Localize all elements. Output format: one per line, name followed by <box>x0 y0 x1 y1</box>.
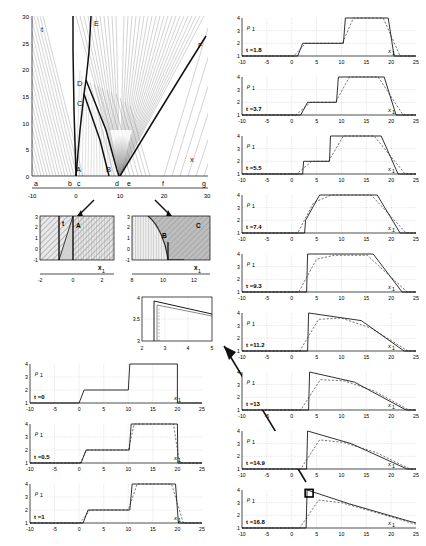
profile-time-label: t =11.2 <box>246 342 265 348</box>
profile-x-tick: 5 <box>315 413 318 419</box>
profile-x-tick: 5 <box>315 354 318 360</box>
profile-y-axis-label-sub: 1 <box>252 26 255 32</box>
profile-y-axis-label-sub: 1 <box>252 321 255 327</box>
profile-panel-t-0: 1234-10-50510152025ρ1x1t =0 <box>8 358 208 416</box>
profile-x-axis-label: x <box>387 165 391 172</box>
profile-x-tick: 25 <box>413 59 419 65</box>
profile-panel-t-5.5: 1234-10-50510152025ρ1x1t =5.5 <box>220 130 422 187</box>
profile-y-tick: 3 <box>237 323 240 329</box>
region-label-e: E <box>94 19 99 28</box>
profile-x-tick: -10 <box>238 118 246 124</box>
profile-x-tick: 25 <box>413 413 419 419</box>
inset-detail-x-ticks: 2 3 4 5 <box>141 345 214 351</box>
profile-y-tick: 3 <box>237 28 240 34</box>
svg-text:1: 1 <box>127 235 130 241</box>
profile-y-axis-label: ρ <box>246 495 250 502</box>
profile-panel-svg: 1234-10-50510152025ρ1x1t =16.8 <box>220 484 422 541</box>
profile-x-tick: 20 <box>388 236 394 242</box>
profile-y-tick: 4 <box>237 15 240 21</box>
profile-y-tick: 3 <box>237 87 240 93</box>
profile-x-tick: 5 <box>315 236 318 242</box>
profile-y-axis-label: ρ <box>246 377 250 384</box>
profile-x-tick: -5 <box>52 526 57 532</box>
profile-x-tick: 5 <box>315 118 318 124</box>
profile-x-tick: 5 <box>102 406 105 412</box>
profile-y-axis-label: ρ <box>34 429 38 436</box>
profile-y-axis-label: ρ <box>246 436 250 443</box>
svg-text:f: f <box>162 180 164 187</box>
profile-x-tick: -5 <box>52 406 57 412</box>
profile-x-tick: 20 <box>175 406 181 412</box>
profile-x-tick: 15 <box>150 526 156 532</box>
inset-right-y-ticks: 3 2 1 0 -1 <box>125 214 130 264</box>
profile-x-tick: 0 <box>78 406 81 412</box>
region-label-b: B <box>106 165 111 174</box>
profile-x-axis-label: x <box>387 283 391 290</box>
profile-y-axis-label: ρ <box>34 369 38 376</box>
svg-text:-2: -2 <box>38 277 43 283</box>
profile-y-axis-label: ρ <box>246 23 250 30</box>
profile-x-tick: 5 <box>315 472 318 478</box>
profile-x-tick: -5 <box>265 295 270 301</box>
svg-text:2: 2 <box>127 224 130 230</box>
profile-x-tick: 5 <box>315 177 318 183</box>
profile-x-tick: 0 <box>290 413 293 419</box>
svg-text:3: 3 <box>137 338 140 344</box>
profile-x-axis-label-sub: 1 <box>392 286 395 292</box>
inset-left-label-a: A <box>76 222 81 229</box>
profile-x-axis-label: x <box>387 460 391 467</box>
profile-y-tick: 4 <box>237 369 240 375</box>
profile-y-tick: 4 <box>237 133 240 139</box>
profile-x-tick: 25 <box>199 406 205 412</box>
profile-y-tick: 3 <box>237 264 240 270</box>
svg-text:g: g <box>202 180 206 188</box>
profile-y-tick: 3 <box>237 205 240 211</box>
profile-y-axis-label: ρ <box>246 200 250 207</box>
svg-text:3: 3 <box>35 214 38 220</box>
profile-y-tick: 2 <box>25 387 28 393</box>
inset-right-x-sub: 1 <box>198 268 201 274</box>
profile-x-tick: 20 <box>388 177 394 183</box>
profile-x-tick: 25 <box>199 526 205 532</box>
profile-x-tick: 25 <box>413 236 419 242</box>
svg-text:2: 2 <box>101 277 104 283</box>
profile-panel-svg: 1234-10-50510152025ρ1x1t =7.4 <box>220 189 422 246</box>
profile-x-tick: 15 <box>150 466 156 472</box>
profile-y-tick: 3 <box>237 441 240 447</box>
profile-x-tick: 20 <box>175 466 181 472</box>
profile-x-tick: -5 <box>265 472 270 478</box>
profile-x-axis-label-sub: 1 <box>392 345 395 351</box>
svg-text:-1: -1 <box>33 257 38 263</box>
profile-y-tick: 3 <box>237 382 240 388</box>
profile-x-tick: -5 <box>265 177 270 183</box>
profile-x-tick: 15 <box>363 295 369 301</box>
profile-x-tick: 20 <box>388 531 394 537</box>
profile-time-label: t =16.8 <box>246 519 266 525</box>
profile-time-label: t =9.3 <box>246 283 262 289</box>
svg-text:8: 8 <box>131 277 134 283</box>
profile-time-label: t =1.8 <box>246 47 262 53</box>
profile-y-tick: 3 <box>25 374 28 380</box>
profile-panel-t-3.7: 1234-10-50510152025ρ1x1t =3.7 <box>220 71 422 128</box>
svg-text:20: 20 <box>22 67 29 73</box>
profile-y-axis-label-sub: 1 <box>252 498 255 504</box>
profile-y-tick: 3 <box>25 494 28 500</box>
region-label-c: C <box>77 99 83 108</box>
profile-y-axis-label-sub: 1 <box>252 439 255 445</box>
svg-text:0: 0 <box>127 246 130 252</box>
profile-x-tick: 10 <box>339 354 345 360</box>
profile-y-axis-label-sub: 1 <box>40 372 43 378</box>
inset-detail-svg: 4 3.5 3 2 3 4 5 <box>126 292 218 354</box>
profile-x-tick: 25 <box>413 295 419 301</box>
profile-x-tick: 0 <box>290 177 293 183</box>
profile-panel-svg: 1234-10-50510152025ρ1x1t =3.7 <box>220 71 422 128</box>
profile-y-tick: 4 <box>237 251 240 257</box>
profile-x-axis-label-sub: 1 <box>178 457 181 463</box>
svg-text:30: 30 <box>22 14 29 20</box>
inset-left-x-ticks: -2 0 2 <box>38 277 104 283</box>
svg-text:10: 10 <box>22 121 29 127</box>
region-label-d: D <box>77 79 83 88</box>
profile-x-axis-label: x <box>173 394 177 401</box>
svg-text:a: a <box>34 180 38 187</box>
profile-x-tick: -5 <box>265 59 270 65</box>
